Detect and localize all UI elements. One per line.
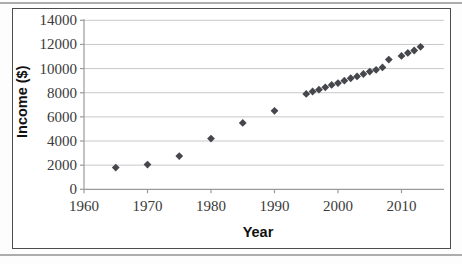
x-tick-label: 2010 — [387, 198, 417, 214]
y-tick-label: 4000 — [47, 133, 77, 149]
data-point-marker — [347, 74, 355, 82]
data-point-marker — [302, 90, 310, 98]
data-point-marker — [340, 77, 348, 85]
y-tick-label: 2000 — [47, 157, 77, 173]
data-point-marker — [353, 73, 361, 81]
y-tick-label: 12000 — [40, 36, 78, 52]
data-point-marker — [398, 52, 406, 60]
data-point-marker — [379, 63, 387, 71]
data-point-marker — [144, 161, 152, 169]
y-tick-label: 8000 — [47, 85, 77, 101]
x-axis-title: Year — [228, 224, 288, 240]
data-point-marker — [410, 47, 418, 55]
data-point-marker — [328, 81, 336, 89]
x-tick-label: 1980 — [196, 198, 226, 214]
y-tick-label: 0 — [70, 181, 78, 197]
data-point-marker — [175, 152, 183, 160]
data-point-marker — [404, 49, 412, 57]
x-tick-label: 1990 — [260, 198, 290, 214]
y-tick-label: 14000 — [40, 12, 78, 28]
data-point-marker — [334, 79, 342, 87]
y-tick-label: 6000 — [47, 109, 77, 125]
data-point-marker — [271, 107, 279, 115]
data-point-marker — [385, 56, 393, 64]
data-point-marker — [309, 88, 317, 96]
x-tick-label: 1960 — [69, 198, 99, 214]
scatter-chart: 0200040006000800010000120001400019601970… — [0, 0, 462, 264]
data-point-marker — [239, 119, 247, 127]
y-axis-title: Income ($) — [14, 74, 30, 138]
y-tick-label: 10000 — [40, 61, 78, 77]
data-point-marker — [360, 70, 368, 78]
x-tick-label: 1970 — [133, 198, 163, 214]
data-point-marker — [372, 66, 380, 74]
bottom-divider-line — [0, 254, 462, 256]
x-tick-label: 2000 — [323, 198, 353, 214]
data-point-marker — [321, 83, 329, 91]
